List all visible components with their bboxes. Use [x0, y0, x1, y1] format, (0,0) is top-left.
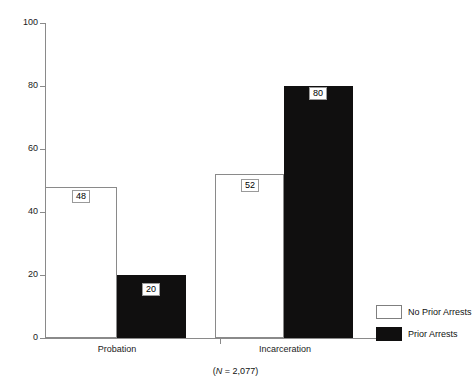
legend-swatch-white-icon [376, 305, 402, 319]
value-label-incarceration-prior-arrests: 80 [309, 87, 327, 100]
legend-item-no-prior-arrests: No Prior Arrests [376, 303, 472, 320]
value-label-incarceration-no-prior-arrests: 52 [241, 179, 259, 192]
legend-label-no-prior-arrests: No Prior Arrests [408, 307, 472, 317]
legend-item-prior-arrests: Prior Arrests [376, 325, 472, 342]
y-tick-0 [40, 338, 45, 339]
value-label-probation-prior-arrests: 20 [142, 283, 160, 296]
x-axis-category-label-incarceration: Incarceration [259, 344, 311, 355]
y-axis-label-80: 80 [4, 81, 38, 90]
legend-swatch-black-icon [376, 327, 402, 341]
x-axis-line [45, 338, 391, 339]
y-axis-label-100: 100 [4, 18, 38, 27]
y-axis-label-0: 0 [4, 333, 38, 342]
caption-rest: = 2,077) [222, 366, 258, 376]
bar-probation-no-prior-arrests [45, 187, 117, 338]
value-label-probation-no-prior-arrests: 48 [72, 190, 90, 203]
chart-caption: (N = 2,077) [0, 366, 471, 377]
bar-incarceration-prior-arrests [284, 86, 353, 338]
y-axis-label-60: 60 [4, 144, 38, 153]
bar-incarceration-no-prior-arrests [215, 174, 284, 338]
plot-area [45, 23, 390, 338]
x-axis-category-label-probation: Probation [98, 344, 137, 355]
y-axis-label-20: 20 [4, 270, 38, 279]
legend-label-prior-arrests: Prior Arrests [408, 329, 458, 339]
legend: No Prior Arrests Prior Arrests [376, 303, 472, 347]
y-axis-label-40: 40 [4, 207, 38, 216]
x-axis-group-divider-tick [220, 338, 221, 344]
